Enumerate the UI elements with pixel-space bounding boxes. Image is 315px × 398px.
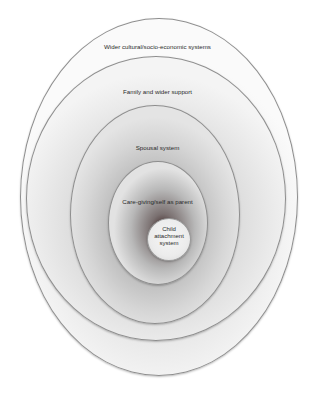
child-attachment-label-line: system: [147, 240, 191, 247]
nested-systems-diagram: Wider cultural/socio-economic systems Fa…: [0, 0, 315, 398]
child-attachment-label-line: Child: [147, 226, 191, 233]
family-support-label: Family and wider support: [0, 88, 315, 95]
care-giving-label: Care-giving/self as parent: [0, 198, 315, 205]
child-attachment-label: Child attachment system: [147, 226, 191, 247]
child-attachment-label-line: attachment: [147, 233, 191, 240]
wider-cultural-systems-label: Wider cultural/socio-economic systems: [0, 43, 315, 50]
spousal-system-label: Spousal system: [0, 144, 315, 151]
